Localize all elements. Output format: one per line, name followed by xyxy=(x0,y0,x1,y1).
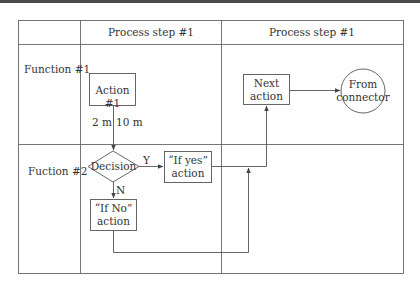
yes-branch-label: Y xyxy=(143,154,150,167)
swimlane-diagram xyxy=(0,0,420,290)
if-yes-line2: action xyxy=(164,167,212,180)
connector-label: From connector xyxy=(336,78,390,103)
row-label-function-1: Function #1 xyxy=(24,63,90,76)
time-annotation-right: 10 m xyxy=(116,116,143,129)
arrow-if-yes-to-next-action xyxy=(212,106,267,167)
if-yes-line1: “If yes” xyxy=(164,154,212,167)
next-action-label: Next action xyxy=(243,77,290,102)
time-annotation-left: 2 m xyxy=(92,116,112,129)
header-process-step-2: Process step #1 xyxy=(269,26,355,39)
row-label-function-2: Fuction #2 xyxy=(28,165,87,178)
connector-line2: connector xyxy=(336,91,390,104)
if-no-line2: action xyxy=(90,215,137,228)
swimlane-grid xyxy=(18,20,404,274)
if-no-line1: “If No” xyxy=(90,202,137,215)
if-no-label: “If No” action xyxy=(90,202,137,227)
no-branch-label: N xyxy=(116,184,125,197)
next-action-line1: Next xyxy=(243,77,290,90)
connector-line1: From xyxy=(336,78,390,91)
action-1-label: Action #1 xyxy=(89,84,136,109)
header-process-step-1: Process step #1 xyxy=(108,26,194,39)
if-yes-label: “If yes” action xyxy=(164,154,212,179)
decision-label: Decision xyxy=(88,160,139,173)
next-action-line2: action xyxy=(243,90,290,103)
table-outline xyxy=(19,21,404,274)
